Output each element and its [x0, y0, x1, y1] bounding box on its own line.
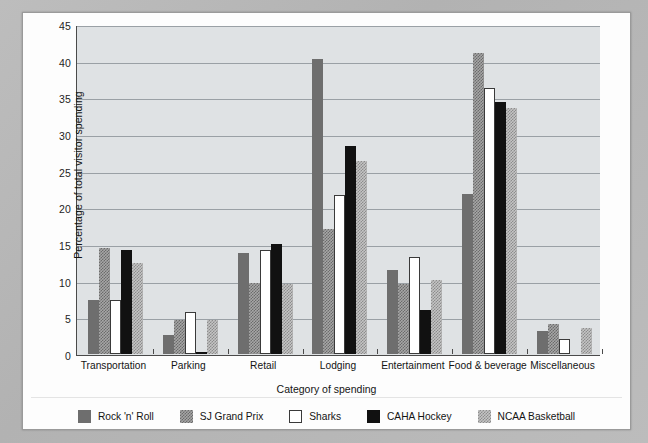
bar-group: [303, 25, 378, 354]
bar: [110, 300, 121, 354]
y-tick-label: 10: [37, 277, 71, 289]
legend-label: Sharks: [309, 411, 341, 422]
x-tick-label: Transportation: [81, 360, 146, 371]
y-tick-label: 20: [37, 203, 71, 215]
scanned-page-background: 051015202530354045 Percentage of total v…: [0, 0, 648, 443]
legend-item[interactable]: CAHA Hockey: [367, 410, 452, 423]
y-axis-tick-labels: 051015202530354045: [35, 26, 71, 356]
y-tick-label: 45: [37, 20, 71, 32]
bar: [99, 248, 110, 354]
bar: [462, 194, 473, 354]
x-tick-label: Retail: [250, 360, 276, 371]
bar: [121, 250, 132, 354]
x-tick-label: Lodging: [320, 360, 356, 371]
bar: [174, 320, 185, 354]
bars-layer: [78, 25, 600, 354]
legend-swatch-icon: [180, 410, 193, 423]
y-tick-label: 25: [37, 167, 71, 179]
x-tick-label: Entertainment: [381, 360, 444, 371]
x-tick: [602, 349, 603, 354]
bar: [387, 270, 398, 354]
bar-group: [153, 25, 228, 354]
bar: [398, 284, 409, 354]
legend-item[interactable]: SJ Grand Prix: [180, 410, 263, 423]
bar: [312, 59, 323, 354]
legend-item[interactable]: Sharks: [289, 410, 341, 423]
bar: [207, 320, 218, 354]
bar: [506, 108, 517, 354]
plot-area: [76, 26, 600, 356]
bar: [323, 229, 334, 354]
bar: [409, 257, 420, 354]
bar: [473, 53, 484, 354]
bar-group: [377, 25, 452, 354]
bar: [163, 335, 174, 354]
bar: [185, 312, 196, 354]
bar: [495, 102, 506, 354]
bar: [431, 280, 442, 354]
y-axis-title: Percentage of total visitor spending: [72, 0, 84, 375]
y-tick-label: 0: [37, 350, 71, 362]
legend-swatch-icon: [367, 410, 380, 423]
y-tick-label: 35: [37, 93, 71, 105]
y-tick-label: 40: [37, 57, 71, 69]
x-tick-label: Miscellaneous: [530, 360, 595, 371]
legend-swatch-icon: [78, 410, 91, 423]
legend-item[interactable]: Rock 'n' Roll: [78, 410, 154, 423]
bar: [196, 352, 207, 354]
y-tick-label: 5: [37, 313, 71, 325]
legend-swatch-icon: [289, 410, 302, 423]
plot-area-wrapper: 051015202530354045 Percentage of total v…: [76, 26, 600, 356]
bar: [559, 339, 570, 354]
x-tick-label: Parking: [171, 360, 206, 371]
bar: [334, 195, 345, 354]
legend-label: SJ Grand Prix: [200, 411, 263, 422]
bar: [271, 244, 282, 354]
legend-divider: [31, 397, 622, 398]
bar-chart: 051015202530354045 Percentage of total v…: [23, 13, 630, 429]
x-tick-label: Food & beverage: [449, 360, 527, 371]
legend-label: CAHA Hockey: [387, 411, 452, 422]
bar-group: [78, 25, 153, 354]
y-tick-label: 15: [37, 240, 71, 252]
bar: [238, 253, 249, 354]
bar: [260, 250, 271, 354]
bar: [484, 88, 495, 354]
bar: [581, 328, 592, 354]
bar: [132, 263, 143, 354]
chart-page: 051015202530354045 Percentage of total v…: [22, 12, 631, 430]
bar-group: [527, 25, 602, 354]
x-axis-title: Category of spending: [23, 383, 630, 395]
bar: [356, 161, 367, 354]
legend-label: NCAA Basketball: [498, 411, 576, 422]
bar: [548, 324, 559, 354]
bar: [249, 283, 260, 354]
legend-swatch-icon: [478, 410, 491, 423]
chart-legend: Rock 'n' RollSJ Grand PrixSharksCAHA Hoc…: [23, 405, 630, 427]
y-tick-label: 30: [37, 130, 71, 142]
bar: [345, 146, 356, 354]
legend-item[interactable]: NCAA Basketball: [478, 410, 576, 423]
bar-group: [228, 25, 303, 354]
bar-group: [452, 25, 527, 354]
bar: [420, 310, 431, 354]
bar: [282, 284, 293, 354]
legend-label: Rock 'n' Roll: [98, 411, 154, 422]
bar: [88, 300, 99, 354]
bar: [537, 331, 548, 354]
